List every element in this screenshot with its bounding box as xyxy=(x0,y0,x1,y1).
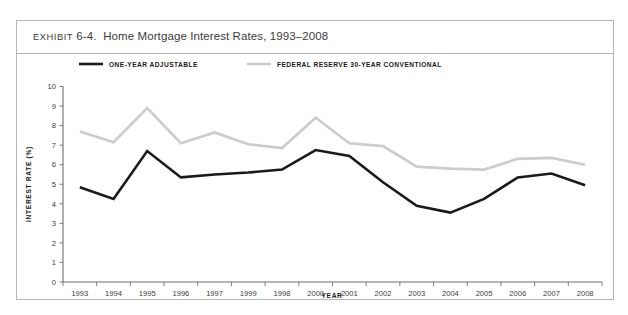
y-axis-title: INTEREST RATE (%) xyxy=(25,146,33,222)
x-tick-label: 2006 xyxy=(509,289,526,298)
y-tick-label: 8 xyxy=(52,121,56,130)
series-line-one-year-adjustable xyxy=(80,150,585,213)
x-tick-label: 1998 xyxy=(274,289,291,298)
series-line-federal-reserve-30-year xyxy=(80,108,585,170)
y-tick-label: 6 xyxy=(52,160,56,169)
x-tick-label: 2002 xyxy=(375,289,392,298)
page-title: EXHIBIT 6-4. Home Mortgage Interest Rate… xyxy=(33,30,328,42)
x-tick-label: 1993 xyxy=(71,289,88,298)
y-tick-label: 4 xyxy=(52,200,56,209)
y-tick-label: 5 xyxy=(52,180,56,189)
y-tick-label: 7 xyxy=(52,141,56,150)
exhibit-title-text: Home Mortgage Interest Rates, 1993–2008 xyxy=(103,30,328,42)
x-axis-ticks xyxy=(63,282,602,286)
exhibit-number: 6-4. xyxy=(76,30,96,42)
x-tick-label: 2005 xyxy=(476,289,493,298)
y-tick-label: 9 xyxy=(52,102,56,111)
x-tick-label: 1995 xyxy=(139,289,156,298)
y-tick-label: 2 xyxy=(52,239,56,248)
legend-label-federal-reserve-30-year: FEDERAL RESERVE 30-YEAR CONVENTIONAL xyxy=(277,61,442,68)
y-tick-label: 1 xyxy=(52,258,56,267)
x-tick-label: 2007 xyxy=(543,289,560,298)
x-tick-label: 2008 xyxy=(577,289,594,298)
x-tick-label: 1999 xyxy=(240,289,257,298)
x-axis-title: YEAR xyxy=(321,292,342,299)
y-tick-label: 10 xyxy=(48,82,56,91)
x-tick-label: 1996 xyxy=(172,289,189,298)
exhibit-label: EXHIBIT xyxy=(33,32,73,42)
line-chart: 109876543210 INTEREST RATE (%) 199319941… xyxy=(17,54,615,300)
y-axis-tick-labels: 109876543210 xyxy=(48,82,56,287)
x-tick-label: 1997 xyxy=(206,289,223,298)
legend-label-one-year-adjustable: ONE-YEAR ADJUSTABLE xyxy=(109,61,198,68)
x-tick-label: 1994 xyxy=(105,289,122,298)
x-tick-label: 2003 xyxy=(408,289,425,298)
x-tick-label: 2004 xyxy=(442,289,459,298)
y-tick-label: 0 xyxy=(52,278,56,287)
chart-plot-area: 109876543210 INTEREST RATE (%) 199319941… xyxy=(17,54,615,300)
chart-legend: ONE-YEAR ADJUSTABLE FEDERAL RESERVE 30-Y… xyxy=(79,61,442,68)
exhibit-title-bar: EXHIBIT 6-4. Home Mortgage Interest Rate… xyxy=(17,21,613,54)
exhibit-card: EXHIBIT 6-4. Home Mortgage Interest Rate… xyxy=(16,20,614,300)
x-tick-label: 2001 xyxy=(341,289,358,298)
y-tick-label: 3 xyxy=(52,219,56,228)
